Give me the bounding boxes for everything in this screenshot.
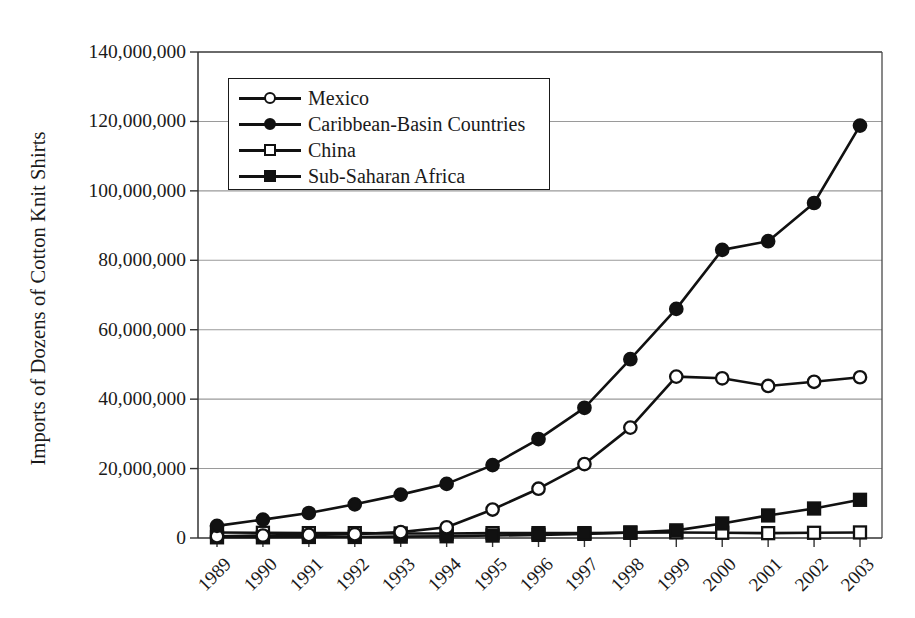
legend-marker-square-filled-icon xyxy=(239,165,301,187)
legend-label: Caribbean-Basin Countries xyxy=(308,113,525,136)
legend-marker-circle-filled-icon xyxy=(239,113,301,135)
legend-label: Mexico xyxy=(308,87,369,110)
legend-item-2[interactable]: China xyxy=(239,137,549,163)
legend-marker-circle-open-icon xyxy=(239,87,301,109)
legend-item-0[interactable]: Mexico xyxy=(239,85,549,111)
legend-label: China xyxy=(308,139,356,162)
chart-legend: Mexico Caribbean-Basin Countries China S… xyxy=(228,78,550,190)
legend-item-1[interactable]: Caribbean-Basin Countries xyxy=(239,111,549,137)
legend-label: Sub-Saharan Africa xyxy=(308,165,465,188)
legend-item-3[interactable]: Sub-Saharan Africa xyxy=(239,163,549,189)
legend-marker-square-open-icon xyxy=(239,139,301,161)
chart-figure: Imports of Dozens of Cotton Knit Shirts … xyxy=(0,0,915,618)
